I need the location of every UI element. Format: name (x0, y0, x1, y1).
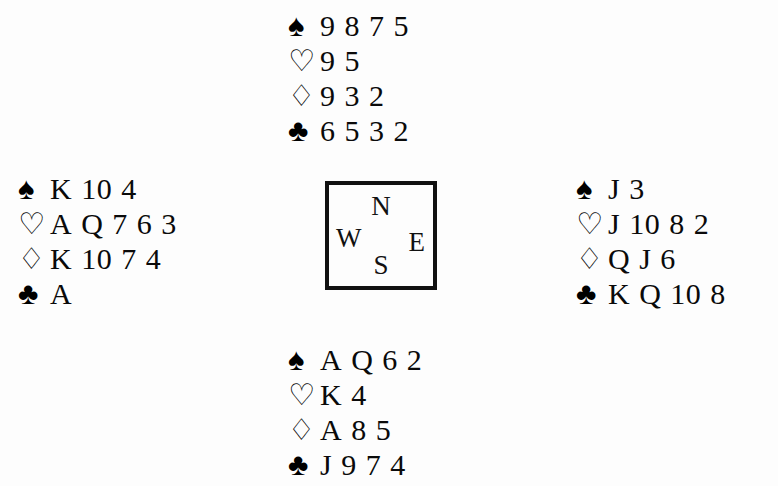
compass-north-label: N (371, 193, 391, 220)
diamond-icon: ♢ (18, 241, 48, 276)
card-rank: Q (351, 343, 373, 376)
spade-icon: ♠ (18, 171, 48, 206)
card-rank: 9 (320, 79, 336, 112)
card-rank: 9 (341, 448, 357, 481)
card-rank: 8 (710, 277, 726, 310)
hand-south-spades-ranks: AQ62 (318, 342, 422, 377)
hand-north-spades-row: ♠ 9875 (288, 8, 409, 43)
hand-west-diamonds-row: ♢ K1074 (18, 241, 177, 276)
card-rank: 6 (137, 207, 153, 240)
hand-west-spades-row: ♠ K104 (18, 171, 177, 206)
card-rank: A (320, 343, 342, 376)
hand-north-diamonds-row: ♢ 932 (288, 78, 409, 113)
card-rank: 10 (629, 207, 660, 240)
card-rank: J (608, 172, 620, 205)
card-rank: K (50, 242, 72, 275)
club-icon: ♣ (576, 276, 606, 311)
card-rank: 10 (81, 242, 112, 275)
hand-east-clubs-row: ♣ KQ108 (576, 276, 726, 311)
card-rank: 2 (369, 79, 385, 112)
card-rank: 3 (629, 172, 645, 205)
hand-north-clubs-row: ♣ 6532 (288, 113, 409, 148)
hand-south-clubs-ranks: J974 (318, 447, 406, 482)
card-rank: 4 (146, 242, 162, 275)
hand-south-hearts-row: ♡ K4 (288, 377, 422, 412)
heart-icon: ♡ (576, 206, 606, 241)
hand-east-spades-row: ♠ J3 (576, 171, 726, 206)
hand-north-hearts-row: ♡ 95 (288, 43, 409, 78)
club-icon: ♣ (18, 276, 48, 311)
hand-west-clubs-ranks: A (48, 276, 72, 311)
card-rank: 3 (161, 207, 177, 240)
card-rank: 5 (394, 9, 410, 42)
hand-east-hearts-row: ♡ J1082 (576, 206, 726, 241)
card-rank: 9 (320, 9, 336, 42)
club-icon: ♣ (288, 447, 318, 482)
hand-east-hearts-ranks: J1082 (606, 206, 709, 241)
spade-icon: ♠ (288, 8, 318, 43)
card-rank: K (608, 277, 630, 310)
hand-north-clubs-ranks: 6532 (318, 113, 409, 148)
card-rank: J (608, 207, 620, 240)
hand-west-hearts-row: ♡ AQ763 (18, 206, 177, 241)
hand-south-spades-row: ♠ AQ62 (288, 342, 422, 377)
hand-west-clubs-row: ♣ A (18, 276, 177, 311)
heart-icon: ♡ (288, 43, 318, 78)
card-rank: 10 (81, 172, 112, 205)
card-rank: 6 (660, 242, 676, 275)
card-rank: 2 (407, 343, 423, 376)
card-rank: 8 (669, 207, 685, 240)
compass-west-label: W (336, 225, 361, 252)
hand-south: ♠ AQ62 ♡ K4 ♢ A85 ♣ J974 (288, 342, 422, 482)
card-rank: Q (608, 242, 630, 275)
card-rank: 9 (320, 44, 336, 77)
hand-north: ♠ 9875 ♡ 95 ♢ 932 ♣ 6532 (288, 8, 409, 148)
card-rank: 4 (121, 172, 137, 205)
hand-east-diamonds-row: ♢ QJ6 (576, 241, 726, 276)
hand-north-diamonds-ranks: 932 (318, 78, 385, 113)
compass-east-label: E (409, 229, 426, 256)
hand-west-diamonds-ranks: K1074 (48, 241, 161, 276)
hand-east-diamonds-ranks: QJ6 (606, 241, 676, 276)
spade-icon: ♠ (288, 342, 318, 377)
card-rank: K (50, 172, 72, 205)
card-rank: 6 (382, 343, 398, 376)
hand-west: ♠ K104 ♡ AQ763 ♢ K1074 ♣ A (18, 171, 177, 311)
compass-box: N W E S (325, 181, 437, 290)
hand-south-hearts-ranks: K4 (318, 377, 367, 412)
card-rank: 3 (345, 79, 361, 112)
card-rank: 3 (369, 114, 385, 147)
card-rank: 5 (345, 114, 361, 147)
card-rank: 7 (112, 207, 128, 240)
club-icon: ♣ (288, 113, 318, 148)
hand-east-spades-ranks: J3 (606, 171, 645, 206)
heart-icon: ♡ (288, 377, 318, 412)
hand-south-diamonds-ranks: A85 (318, 412, 391, 447)
card-rank: 4 (390, 448, 406, 481)
card-rank: J (639, 242, 651, 275)
bridge-deal-diagram: ♠ 9875 ♡ 95 ♢ 932 ♣ 6532 ♠ K104 ♡ AQ763 … (0, 0, 778, 486)
hand-north-hearts-ranks: 95 (318, 43, 360, 78)
card-rank: J (320, 448, 332, 481)
diamond-icon: ♢ (576, 241, 606, 276)
card-rank: 5 (376, 413, 392, 446)
heart-icon: ♡ (18, 206, 48, 241)
card-rank: 2 (394, 114, 410, 147)
spade-icon: ♠ (576, 171, 606, 206)
card-rank: Q (639, 277, 661, 310)
hand-east-clubs-ranks: KQ108 (606, 276, 726, 311)
card-rank: 5 (345, 44, 361, 77)
card-rank: A (320, 413, 342, 446)
card-rank: 10 (670, 277, 701, 310)
card-rank: A (50, 207, 72, 240)
hand-west-spades-ranks: K104 (48, 171, 137, 206)
hand-east: ♠ J3 ♡ J1082 ♢ QJ6 ♣ KQ108 (576, 171, 726, 311)
hand-south-clubs-row: ♣ J974 (288, 447, 422, 482)
card-rank: 8 (345, 9, 361, 42)
hand-west-hearts-ranks: AQ763 (48, 206, 177, 241)
card-rank: 8 (351, 413, 367, 446)
hand-south-diamonds-row: ♢ A85 (288, 412, 422, 447)
card-rank: 4 (351, 378, 367, 411)
diamond-icon: ♢ (288, 78, 318, 113)
card-rank: Q (81, 207, 103, 240)
